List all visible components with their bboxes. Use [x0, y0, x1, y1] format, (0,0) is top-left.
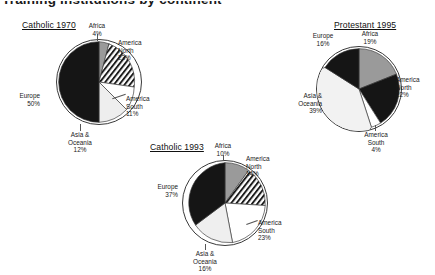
slice-label-name-line2: South: [356, 139, 396, 147]
slice-label-name-line1: America: [364, 131, 387, 138]
chart-title-catholic-1993: Catholic 1993: [150, 142, 204, 152]
slice-label-asia-oceania-1970: Asia & Oceania 12%: [58, 131, 102, 154]
slice-label-pct: 22%: [396, 91, 434, 99]
slice-label-name: Europe: [313, 32, 334, 39]
slice-label-name: Europe: [19, 92, 40, 99]
slice-label-pct: 12%: [58, 146, 102, 154]
slice-label-pct: 23%: [258, 234, 298, 242]
leader-line: [205, 244, 206, 250]
slice-label-asia-oceania-1993: Asia & Oceania 16%: [184, 250, 226, 273]
chart-title-protestant-1995: Protestant 1995: [334, 20, 396, 30]
slice-label-pct: 16%: [184, 265, 226, 273]
slice-label-pct: 4%: [356, 146, 396, 154]
slice-label-europe-1993: Europe 37%: [140, 183, 178, 198]
slice-label-name-line1: America: [246, 155, 269, 162]
slice-label-europe-1970: Europe 50%: [0, 92, 40, 107]
slice-label-name-line1: America: [396, 76, 419, 83]
slice-label-pct: 39%: [286, 107, 322, 115]
slice-label-name-line2: South: [258, 227, 298, 235]
chart-title-catholic-1970: Catholic 1970: [22, 20, 76, 30]
slice-label-america-north-1995: America North 22%: [396, 76, 434, 99]
slice-label-asia-oceania-1995: Asia & Oceania 39%: [286, 92, 322, 115]
slice-label-name: Africa: [362, 30, 378, 37]
slice-label-pct: 14%: [246, 170, 286, 178]
page-title: Training institutions by continent: [2, 0, 222, 7]
slice-label-name-line1: America: [258, 219, 281, 226]
slice-label-pct: 37%: [140, 191, 178, 199]
slice-label-america-south-1993: America South 23%: [258, 219, 298, 242]
slice-label-pct: 23%: [118, 54, 160, 62]
slice-label-name-line2: Oceania: [184, 258, 226, 266]
slice-label-name-line1: Asia &: [304, 92, 322, 99]
slice-label-pct: 11%: [126, 110, 168, 118]
slice-label-name: Europe: [157, 183, 178, 190]
slice-label-name-line1: Asia &: [196, 250, 214, 257]
slice-label-america-north-1970: America North 23%: [118, 39, 160, 62]
leader-line: [375, 125, 376, 131]
slice-label-name: Africa: [89, 22, 105, 29]
slice-label-pct: 50%: [0, 100, 40, 108]
leader-line: [80, 124, 81, 131]
slice-label-america-south-1970: America South 11%: [126, 95, 168, 118]
slice-label-name-line2: Oceania: [286, 100, 322, 108]
document-page: Training institutions by continent Catho…: [0, 0, 435, 275]
pie-protestant-1995: [316, 46, 402, 132]
slice-label-name-line1: America: [126, 95, 149, 102]
slice-label-name-line2: South: [126, 103, 168, 111]
slice-label-name-line2: North: [396, 84, 434, 92]
slice-label-pct: 19%: [352, 38, 388, 46]
leader-line: [97, 34, 98, 41]
leader-line: [223, 155, 224, 161]
slice-label-pct: 16%: [306, 40, 340, 48]
slice-label-name-line1: Asia &: [71, 131, 89, 138]
slice-label-america-south-1995: America South 4%: [356, 131, 396, 154]
slice-label-name-line2: Oceania: [58, 139, 102, 147]
slice-label-name: Africa: [215, 142, 231, 149]
slice-label-name-line2: North: [118, 47, 160, 55]
slice-label-africa-1995: Africa 19%: [352, 30, 388, 45]
slice-label-name-line2: North: [246, 163, 286, 171]
slice-label-europe-1995: Europe 16%: [306, 32, 340, 47]
slice-label-america-north-1993: America North 14%: [246, 155, 286, 178]
slice-label-name-line1: America: [118, 39, 141, 46]
